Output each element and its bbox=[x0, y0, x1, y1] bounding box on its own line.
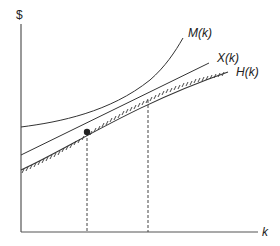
x-axis-label: k bbox=[262, 226, 268, 238]
y-axis-label: $ bbox=[16, 9, 23, 21]
curve-m bbox=[21, 38, 183, 127]
curve-h-label: H(k) bbox=[236, 66, 259, 78]
curve-h-hatching bbox=[22, 72, 224, 173]
diagram: $ k M(k) X(k) H(k) bbox=[0, 0, 280, 246]
curve-m-label: M(k) bbox=[188, 27, 212, 39]
diagram-canvas bbox=[0, 0, 280, 246]
intersection-dot bbox=[84, 129, 90, 135]
curve-x bbox=[21, 63, 209, 155]
curve-x-label: X(k) bbox=[217, 52, 239, 64]
